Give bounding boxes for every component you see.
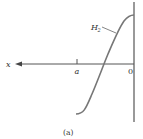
figure-caption: (a): [63, 128, 73, 137]
x-axis-arrow-icon: [15, 62, 22, 67]
origin-label: 0: [128, 67, 133, 76]
curve-label-subscript: 2: [97, 27, 101, 33]
diagram: x a 0 H 2 (a): [0, 0, 143, 139]
tick-label-a: a: [75, 67, 80, 76]
x-axis-label: x: [6, 60, 11, 69]
h2-leader-line: [102, 27, 116, 33]
